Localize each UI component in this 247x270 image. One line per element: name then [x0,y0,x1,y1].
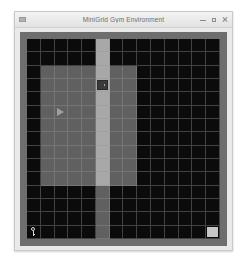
grid-cell[interactable] [55,172,69,185]
grid-cell[interactable] [206,212,220,225]
grid-cell[interactable] [82,66,96,79]
grid-cell[interactable] [55,199,69,212]
grid-cell[interactable] [206,39,220,52]
grid-cell[interactable] [206,66,220,79]
door-object[interactable] [97,80,108,90]
grid-cell[interactable] [137,132,151,145]
grid-cell[interactable] [206,52,220,65]
grid-cell[interactable] [192,92,206,105]
grid-cell[interactable] [27,39,41,52]
grid-cell[interactable] [110,52,124,65]
grid-cell[interactable] [123,212,137,225]
grid-cell[interactable] [82,132,96,145]
grid-cell[interactable] [96,172,110,185]
grid-cell[interactable] [110,66,124,79]
grid-cell[interactable] [137,172,151,185]
grid-cell[interactable] [110,92,124,105]
grid-cell[interactable] [151,132,165,145]
grid-cell[interactable] [206,79,220,92]
grid-cell[interactable] [179,79,193,92]
grid-cell[interactable] [96,79,110,92]
window-titlebar[interactable]: MiniGrid Gym Environment [15,12,232,28]
grid-cell[interactable] [123,39,137,52]
grid-cell[interactable] [165,146,179,159]
grid-cell[interactable] [68,66,82,79]
grid-cell[interactable] [151,146,165,159]
grid-cell[interactable] [179,186,193,199]
grid-cell[interactable] [55,212,69,225]
grid-cell[interactable] [151,199,165,212]
grid-cell[interactable] [165,106,179,119]
grid-cell[interactable] [27,66,41,79]
grid-cell[interactable] [82,199,96,212]
grid-cell[interactable] [206,92,220,105]
grid-cell[interactable] [82,119,96,132]
grid-cell[interactable] [165,119,179,132]
grid-cell[interactable] [165,159,179,172]
grid-cell[interactable] [27,119,41,132]
grid-cell[interactable] [206,159,220,172]
grid-cell[interactable] [165,52,179,65]
grid-cell[interactable] [27,92,41,105]
minimize-button[interactable] [200,17,206,23]
grid-cell[interactable] [110,172,124,185]
grid-cell[interactable] [110,199,124,212]
grid-cell[interactable] [137,52,151,65]
grid-cell[interactable] [96,106,110,119]
grid-cell[interactable] [165,79,179,92]
grid-cell[interactable] [192,79,206,92]
grid-cell[interactable] [192,146,206,159]
grid-cell[interactable] [206,146,220,159]
grid-cell[interactable] [110,132,124,145]
grid-cell[interactable] [41,172,55,185]
grid-cell[interactable] [137,106,151,119]
grid-cell[interactable] [151,226,165,239]
grid-cell[interactable] [96,39,110,52]
grid-cell[interactable] [165,199,179,212]
grid-cell[interactable] [68,106,82,119]
grid-cell[interactable] [55,132,69,145]
grid-cell[interactable] [55,226,69,239]
grid-cell[interactable] [179,199,193,212]
grid-cell[interactable] [179,66,193,79]
grid-cell[interactable] [137,199,151,212]
grid-cell[interactable] [192,186,206,199]
grid-cell[interactable] [123,79,137,92]
grid-cell[interactable] [68,172,82,185]
grid-cell[interactable] [165,66,179,79]
grid-cell[interactable] [151,92,165,105]
grid-cell[interactable] [82,226,96,239]
grid-cell[interactable] [96,66,110,79]
grid-cell[interactable] [41,106,55,119]
grid-cell[interactable] [55,66,69,79]
grid-cell[interactable] [82,92,96,105]
grid-cell[interactable] [96,212,110,225]
grid-cell[interactable] [68,159,82,172]
grid-cell[interactable] [41,119,55,132]
grid-cell[interactable] [82,172,96,185]
grid-cell[interactable] [55,79,69,92]
grid-cell[interactable] [82,212,96,225]
grid-cell[interactable] [41,146,55,159]
grid-cell[interactable] [151,119,165,132]
grid-cell[interactable] [165,226,179,239]
grid-cell[interactable] [179,132,193,145]
grid-cell[interactable] [179,146,193,159]
grid-cell[interactable] [192,106,206,119]
grid-cell[interactable] [151,39,165,52]
grid-cell[interactable] [179,226,193,239]
grid-cell[interactable] [137,39,151,52]
grid-cell[interactable] [151,106,165,119]
grid-cell[interactable] [96,52,110,65]
grid-cell[interactable] [27,212,41,225]
grid-cell[interactable] [55,39,69,52]
grid-cell[interactable] [165,92,179,105]
grid-cell[interactable] [68,132,82,145]
grid-cell[interactable] [68,186,82,199]
grid-cell[interactable] [41,186,55,199]
grid-cell[interactable] [123,172,137,185]
grid-cell[interactable] [165,172,179,185]
goal-tile[interactable] [207,227,217,237]
grid-cell[interactable] [110,226,124,239]
grid-cell[interactable] [55,52,69,65]
